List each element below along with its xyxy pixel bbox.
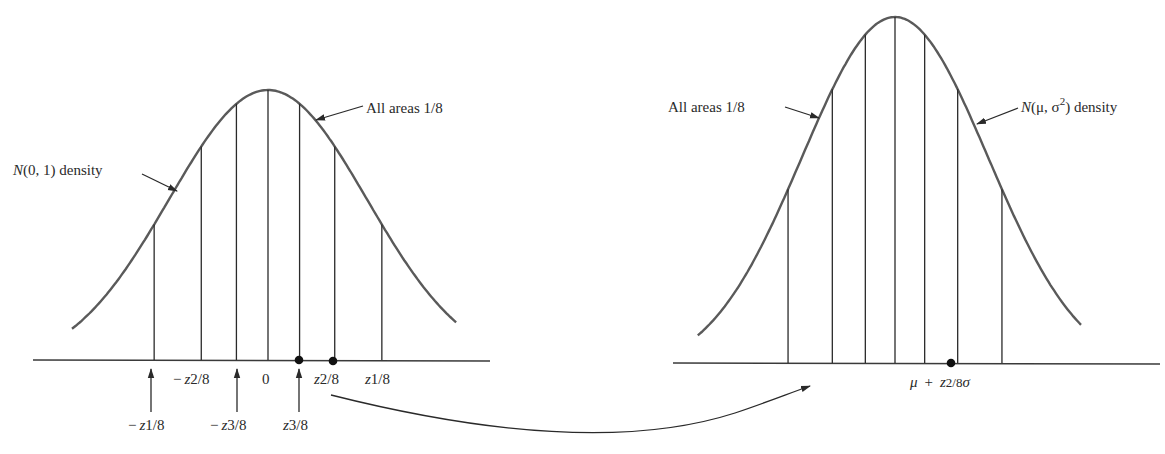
left-point-z3-8 [295,356,304,365]
left-curve-label-arrow [142,174,177,191]
left-areas-label: All areas 1/8 [366,100,443,116]
tick-label-neg-z3-8: −z3/8 [210,417,246,433]
tick-label-neg-z2-8: −z2/8 [173,371,209,387]
right-areas-label-arrow [785,107,819,118]
right-normal-curve [698,17,1081,335]
right-areas-label: All areas 1/8 [668,99,745,115]
right-panel: All areas 1/8 N(μ, σ2) density μ+z2/8σ [668,17,1160,390]
right-curve-label: N(μ, σ2) density [1020,95,1118,116]
tick-label-neg-z1-8: −z1/8 [128,417,164,433]
right-quantile-lines [788,17,1002,363]
mapping-arrow [331,386,810,433]
left-panel: N(0, 1) density All areas 1/8 −z2/8 0 z2… [12,90,490,433]
left-point-z2-8 [329,357,338,366]
left-areas-label-arrow [316,106,363,120]
diagram-canvas: N(0, 1) density All areas 1/8 −z2/8 0 z2… [0,0,1165,454]
left-x-axis [33,360,490,361]
right-point-mu-z2-8-sigma [947,359,956,368]
tick-label-zero: 0 [262,371,270,387]
tick-label-z1-8: z1/8 [364,371,390,387]
right-point-label: μ+z2/8σ [909,374,970,390]
tick-label-z2-8: z2/8 [313,371,339,387]
right-x-axis [673,363,1160,364]
left-curve-label: N(0, 1) density [12,162,103,179]
left-normal-curve [72,90,456,329]
right-curve-label-arrow [977,108,1018,124]
left-quantile-lines [154,90,382,360]
tick-label-z3-8: z3/8 [282,417,308,433]
